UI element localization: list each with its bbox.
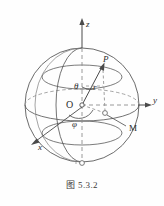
- theta-label: θ: [74, 81, 79, 91]
- y-axis-arrowhead: [145, 102, 152, 107]
- projection-line-om: [82, 105, 105, 113]
- figure-caption: 图 5.3.2: [0, 178, 164, 191]
- south-pole-marker: [80, 161, 85, 166]
- origin-marker: [80, 103, 84, 107]
- point-m-marker: [103, 111, 108, 116]
- point-p-label: P: [102, 54, 109, 64]
- point-m-label: M: [129, 123, 137, 133]
- radius-label: r: [93, 82, 97, 92]
- origin-label: O: [66, 99, 73, 110]
- z-axis-label: z: [85, 19, 90, 29]
- y-axis-label: y: [152, 95, 157, 105]
- phi-label: φ: [72, 119, 77, 129]
- z-axis-arrowhead: [79, 18, 84, 25]
- figure-container: z y x r P M O θ: [0, 0, 164, 206]
- x-axis-label: x: [37, 142, 42, 152]
- spherical-coordinates-diagram: z y x r P M O θ: [0, 0, 164, 178]
